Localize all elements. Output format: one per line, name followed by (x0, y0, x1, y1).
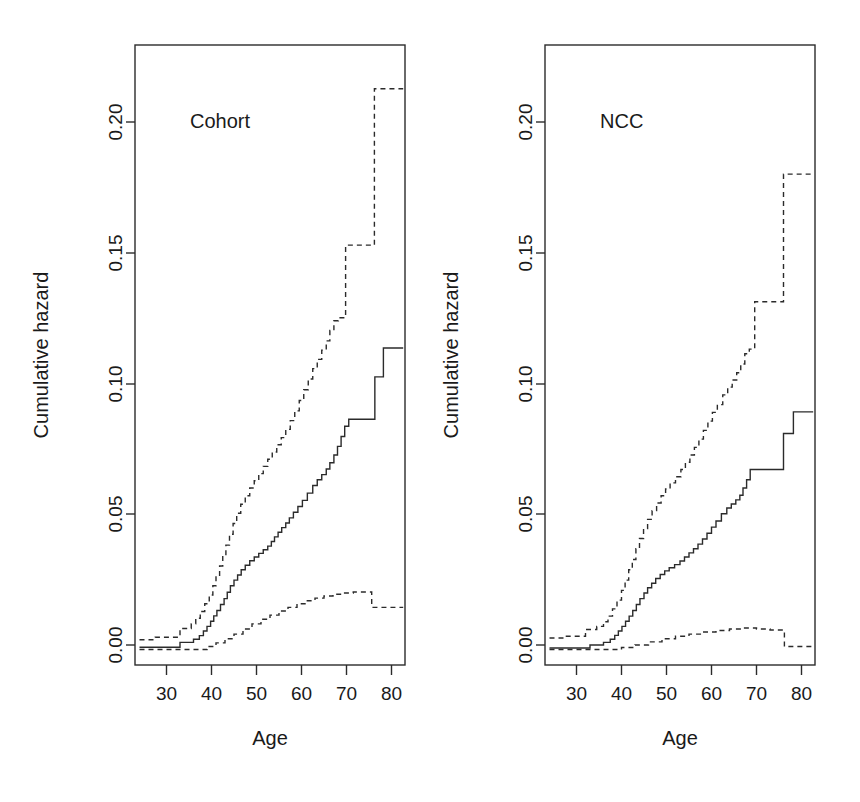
x-tick-label-1: 40 (611, 683, 632, 704)
y-tick-label-3: 0.15 (105, 235, 126, 272)
series-estimate (140, 348, 404, 647)
x-tick-label-0: 30 (566, 683, 587, 704)
panel-cohort-svg: 0.20 0.15 0.10 0.05 0.00 30 (0, 0, 430, 802)
panel-ncc-plot-area: 0.20 0.15 0.10 0.05 0.00 30 40 (440, 45, 815, 749)
y-axis-tick-labels: 0.20 0.15 0.10 0.05 0.00 (105, 104, 126, 664)
y-axis-title: Cumulative hazard (30, 272, 52, 439)
x-tick-label-2: 50 (656, 683, 677, 704)
y-tick-label-0: 0.00 (105, 627, 126, 664)
panel-title-cohort: Cohort (190, 110, 250, 132)
series-group-ncc (550, 174, 814, 649)
x-tick-label-5: 80 (791, 683, 812, 704)
x-tick-label-1: 40 (201, 683, 222, 704)
panel-ncc: 0.20 0.15 0.10 0.05 0.00 30 40 (430, 0, 860, 802)
y-axis-ticks (126, 122, 135, 645)
series-group-cohort (140, 89, 404, 650)
y-tick-label-1: 0.05 (105, 496, 126, 533)
x-tick-label-3: 60 (291, 683, 312, 704)
x-tick-label-4: 70 (746, 683, 767, 704)
x-axis-title: Age (662, 727, 698, 749)
y-axis-tick-labels: 0.20 0.15 0.10 0.05 0.00 (515, 104, 536, 664)
y-tick-label-3: 0.15 (515, 235, 536, 272)
figure-cumulative-hazard-panels: 0.20 0.15 0.10 0.05 0.00 30 (0, 0, 860, 802)
panel-cohort-plot-area: 0.20 0.15 0.10 0.05 0.00 30 (30, 45, 405, 749)
x-axis-tick-labels: 30 40 50 60 70 80 (156, 683, 402, 704)
y-tick-label-2: 0.10 (515, 366, 536, 403)
y-tick-label-0: 0.00 (515, 627, 536, 664)
y-tick-label-2: 0.10 (105, 366, 126, 403)
x-axis-ticks (577, 665, 802, 675)
series-upper-confidence-limit (140, 89, 404, 640)
plot-box-border (545, 45, 815, 665)
y-tick-label-1: 0.05 (515, 496, 536, 533)
panel-title-ncc: NCC (600, 110, 643, 132)
x-axis-tick-labels: 30 40 50 60 70 80 (566, 683, 812, 704)
y-axis-title: Cumulative hazard (440, 272, 462, 439)
x-tick-label-0: 30 (156, 683, 177, 704)
x-axis-title: Age (252, 727, 288, 749)
series-upper-confidence-limit (550, 174, 814, 638)
y-tick-label-4: 0.20 (105, 104, 126, 141)
y-axis-ticks (536, 122, 545, 645)
x-tick-label-4: 70 (336, 683, 357, 704)
panel-cohort: 0.20 0.15 0.10 0.05 0.00 30 (0, 0, 430, 802)
y-tick-label-4: 0.20 (515, 104, 536, 141)
series-lower-confidence-limit (550, 628, 814, 650)
series-lower-confidence-limit (140, 592, 404, 650)
x-tick-label-5: 80 (381, 683, 402, 704)
panel-ncc-svg: 0.20 0.15 0.10 0.05 0.00 30 40 (430, 0, 860, 802)
x-axis-ticks (167, 665, 392, 675)
x-tick-label-2: 50 (246, 683, 267, 704)
series-estimate (550, 412, 814, 648)
plot-box-border (135, 45, 405, 665)
x-tick-label-3: 60 (701, 683, 722, 704)
